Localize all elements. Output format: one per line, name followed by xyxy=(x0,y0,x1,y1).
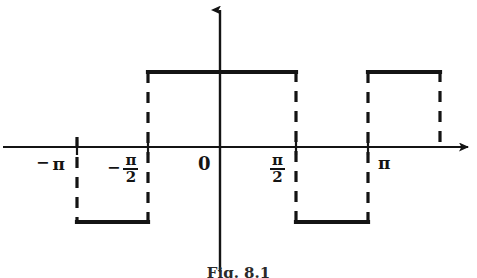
minus-sign-neg-pi-over-2: − xyxy=(107,160,120,176)
figure-container: − π − π 2 0 π 2 π Fig. 8.1 xyxy=(0,0,477,278)
origin-label: 0 xyxy=(198,155,211,173)
square-wave-plot xyxy=(0,0,477,278)
x-tick-label-neg-pi-over-2: − π 2 xyxy=(107,153,138,186)
fraction-denominator: 2 xyxy=(124,170,138,185)
fraction-neg-pi-over-2: π 2 xyxy=(123,153,138,186)
figure-caption: Fig. 8.1 xyxy=(0,266,477,278)
axis-group xyxy=(3,10,468,272)
x-tick-label-neg-pi: − π xyxy=(36,155,65,173)
fraction-denominator: 2 xyxy=(270,170,284,185)
x-tick-label-pi-over-2: π 2 xyxy=(270,153,285,186)
fraction-pi-over-2: π 2 xyxy=(270,153,285,186)
x-tick-label-pi: π xyxy=(378,155,390,172)
pi-symbol-neg-pi: π xyxy=(52,156,64,173)
minus-sign-neg-pi: − xyxy=(36,155,49,171)
